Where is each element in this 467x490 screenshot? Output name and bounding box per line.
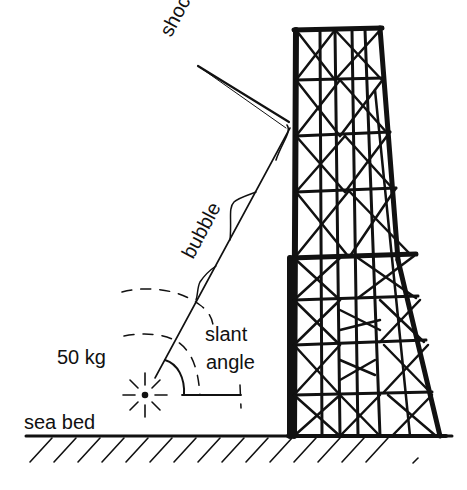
- charge-weight-label: 50 kg: [57, 347, 106, 367]
- slant-label: slant: [205, 324, 247, 344]
- angle-label: angle: [206, 352, 255, 372]
- shock-front-line: [198, 66, 289, 122]
- sea-bed-label: sea bed: [24, 412, 95, 432]
- sea-bed-hatching: [30, 438, 418, 463]
- dashed-wavefront-arcs: [122, 289, 241, 408]
- explosion-charge-symbol: [123, 373, 167, 417]
- slant-angle-arc: [165, 360, 184, 395]
- lattice-tower-platform: [288, 28, 446, 436]
